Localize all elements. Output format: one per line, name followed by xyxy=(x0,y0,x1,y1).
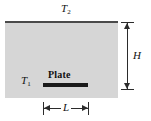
height-dimension-label: H xyxy=(131,49,143,62)
plate-bar xyxy=(43,83,88,87)
length-dimension-arrow-left-icon xyxy=(44,105,50,111)
length-dimension-label: L xyxy=(61,101,71,114)
temperature-label-t2: T2 xyxy=(61,2,71,14)
length-dimension-arrow-right-icon xyxy=(82,105,88,111)
temperature-label-t1: T1 xyxy=(21,74,31,86)
top-boundary-line xyxy=(5,21,118,23)
height-dimension-line xyxy=(127,23,128,89)
height-dimension-tick-bottom xyxy=(121,89,134,90)
heat-transfer-diagram: T2 T1 Plate H L xyxy=(0,0,151,121)
temperature-label-t1-subscript: 1 xyxy=(27,80,31,88)
plate-label: Plate xyxy=(48,69,71,80)
height-dimension-arrow-up-icon xyxy=(124,23,130,29)
height-dimension-arrow-down-icon xyxy=(124,83,130,89)
temperature-label-t2-subscript: 2 xyxy=(67,8,71,16)
length-dimension-tick-right xyxy=(88,102,89,115)
